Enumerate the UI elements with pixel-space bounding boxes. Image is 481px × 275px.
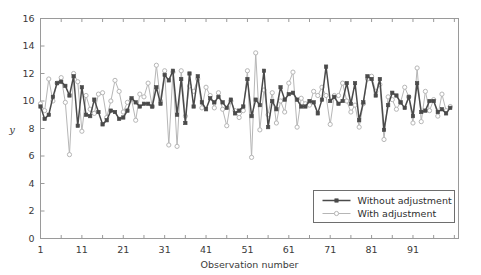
series-marker	[121, 110, 125, 114]
chart-legend[interactable]: Without adjustmentWith adjustment	[314, 191, 455, 223]
series-marker	[394, 107, 398, 111]
series-marker	[163, 69, 167, 73]
series-marker	[225, 106, 228, 109]
y-tick-label: 12	[22, 68, 34, 79]
series-marker	[270, 91, 274, 95]
series-marker	[316, 112, 319, 115]
series-marker	[84, 93, 88, 97]
series-marker	[213, 101, 216, 104]
legend-label: With adjustment	[358, 208, 437, 219]
series-marker	[72, 75, 75, 78]
series-marker	[167, 143, 171, 147]
series-marker	[308, 99, 311, 102]
series-marker	[291, 70, 295, 74]
y-tick-label: 6	[28, 150, 34, 161]
series-marker	[233, 112, 236, 115]
series-marker	[80, 86, 83, 89]
series-marker	[134, 118, 138, 122]
series-marker	[134, 101, 137, 104]
observation-line-chart: 02468101214161112131415161718191Observat…	[0, 0, 481, 275]
series-marker	[249, 155, 253, 159]
series-marker	[353, 81, 356, 84]
series-marker	[92, 111, 96, 115]
series-marker	[382, 137, 386, 141]
series-marker	[105, 119, 108, 122]
x-tick-label: 91	[407, 244, 419, 255]
series-marker	[204, 85, 208, 89]
series-marker	[138, 92, 142, 96]
series-marker	[395, 94, 398, 97]
series-marker	[221, 101, 224, 104]
series-marker	[254, 51, 258, 55]
series-marker	[415, 66, 419, 70]
series-marker	[117, 89, 121, 93]
series-marker	[204, 108, 207, 111]
series-marker	[287, 92, 290, 95]
x-tick-label: 61	[283, 244, 295, 255]
series-marker	[84, 113, 87, 116]
series-marker	[254, 98, 257, 101]
y-tick-label: 14	[22, 40, 34, 51]
series-marker	[192, 105, 195, 108]
series-marker	[312, 89, 316, 93]
series-marker	[97, 110, 100, 113]
series-marker	[337, 102, 340, 105]
series-marker	[274, 121, 278, 125]
series-marker	[142, 95, 146, 99]
series-marker	[291, 91, 294, 94]
series-marker	[217, 95, 220, 98]
series-marker	[300, 105, 303, 108]
series-marker	[113, 78, 117, 82]
series-marker	[324, 65, 327, 68]
series-marker	[403, 85, 407, 89]
series-marker	[130, 97, 133, 100]
series-marker	[316, 93, 320, 97]
series-marker	[155, 86, 158, 89]
series-marker	[386, 95, 390, 99]
x-tick-label: 31	[159, 244, 171, 255]
series-marker	[324, 93, 328, 97]
series-marker	[154, 63, 158, 67]
series-marker	[295, 98, 298, 101]
legend-label: Without adjustment	[358, 195, 452, 206]
series-marker	[382, 128, 385, 131]
series-marker	[245, 69, 249, 73]
series-marker	[122, 116, 125, 119]
series-marker	[295, 125, 299, 129]
series-marker	[283, 110, 287, 114]
series-marker	[349, 102, 352, 105]
series-marker	[43, 109, 47, 113]
series-marker	[167, 79, 170, 82]
series-marker	[59, 76, 63, 80]
chart-figure: 02468101214161112131415161718191Observat…	[0, 0, 481, 275]
series-marker	[424, 109, 427, 112]
series-marker	[67, 153, 71, 157]
series-marker	[225, 124, 229, 128]
series-marker	[221, 107, 225, 111]
series-marker	[329, 99, 332, 102]
series-marker	[200, 106, 204, 110]
y-tick-label: 2	[28, 205, 34, 216]
series-marker	[391, 91, 394, 94]
series-marker	[101, 123, 104, 126]
series-marker	[63, 100, 67, 104]
series-marker	[386, 103, 389, 106]
series-marker	[370, 77, 373, 80]
series-marker	[378, 77, 381, 80]
series-marker	[76, 80, 80, 84]
series-marker	[175, 144, 179, 148]
series-marker	[399, 101, 402, 104]
series-marker	[299, 96, 303, 100]
y-axis-title: y	[8, 124, 15, 135]
series-marker	[320, 98, 323, 101]
series-marker	[113, 110, 116, 113]
series-marker	[208, 97, 211, 100]
series-marker	[341, 81, 345, 85]
series-marker	[109, 109, 112, 112]
series-marker	[287, 81, 291, 85]
series-marker	[179, 69, 183, 73]
series-marker	[333, 95, 336, 98]
series-marker	[427, 109, 431, 113]
series-marker	[109, 99, 113, 103]
series-marker	[262, 69, 265, 72]
